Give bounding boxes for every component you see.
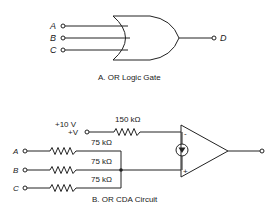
input-label-c: C — [50, 45, 57, 55]
inverting-sign: - — [184, 129, 187, 138]
or-logic-gate-figure: A B C D A. OR Logic Gate — [49, 16, 227, 82]
supply-label: +V — [68, 128, 79, 137]
noninverting-sign: + — [183, 167, 188, 176]
output-label-d: D — [220, 33, 227, 43]
input-terminal-a — [23, 149, 27, 153]
input-terminal-b — [61, 36, 65, 40]
diagram-canvas: A B C D A. OR Logic Gate +10 V +V 150 kΩ… — [0, 0, 276, 207]
or-cda-circuit-figure: +10 V +V 150 kΩ A 75 kΩ B 75 kΩ C 75 kΩ — [12, 115, 264, 204]
input-terminal-b — [23, 168, 27, 172]
resistor-a-label: 75 kΩ — [91, 138, 112, 147]
input-terminal-c — [61, 48, 65, 52]
input-label-b: B — [13, 166, 19, 175]
current-arrow-icon — [179, 148, 186, 154]
resistor-c-label: 75 kΩ — [91, 175, 112, 184]
input-terminal-c — [23, 186, 27, 190]
supply-terminal — [85, 130, 89, 134]
feedback-resistor-150k — [114, 129, 140, 136]
resistor-c-75k — [50, 185, 76, 192]
input-label-c: C — [13, 184, 19, 193]
input-label-b: B — [50, 33, 56, 43]
opamp-output-terminal — [260, 149, 264, 153]
input-label-a: A — [49, 21, 56, 31]
caption-a: A. OR Logic Gate — [98, 73, 161, 82]
resistor-a-75k — [50, 148, 76, 155]
feedback-resistor-label: 150 kΩ — [115, 115, 141, 124]
input-label-a: A — [12, 147, 18, 156]
input-terminal-a — [61, 24, 65, 28]
resistor-b-75k — [50, 167, 76, 174]
caption-b: B. OR CDA Circuit — [92, 195, 158, 204]
resistor-b-label: 75 kΩ — [91, 157, 112, 166]
output-terminal-d — [212, 36, 216, 40]
